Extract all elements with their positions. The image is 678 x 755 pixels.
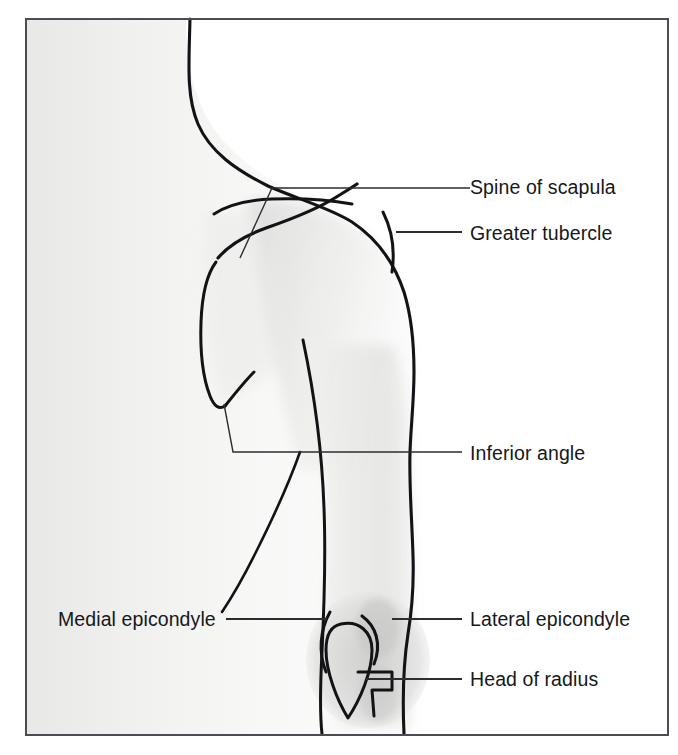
label-head-of-radius: Head of radius bbox=[470, 668, 598, 690]
label-inferior-angle: Inferior angle bbox=[470, 442, 585, 464]
anatomy-diagram-canvas: Spine of scapula Greater tubercle Inferi… bbox=[0, 0, 678, 755]
label-lateral-epicondyle: Lateral epicondyle bbox=[470, 608, 630, 630]
label-medial-epicondyle: Medial epicondyle bbox=[58, 608, 216, 630]
anatomy-figure: Spine of scapula Greater tubercle Inferi… bbox=[0, 0, 678, 755]
label-spine-of-scapula: Spine of scapula bbox=[470, 176, 616, 198]
label-greater-tubercle: Greater tubercle bbox=[470, 222, 613, 244]
